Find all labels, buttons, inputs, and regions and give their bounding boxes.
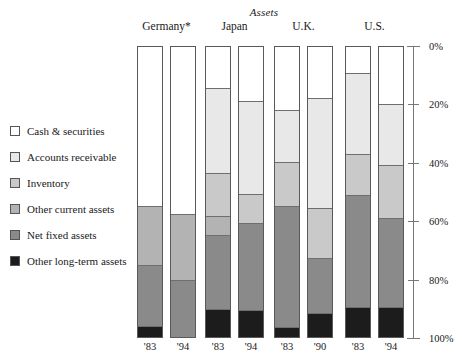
group-header-us: U.S. (364, 20, 384, 32)
bar-segment-cash-securities (171, 47, 195, 214)
legend-item: Inventory (10, 170, 160, 196)
bar-segment-other-long-term-assets (379, 307, 403, 337)
legend-item-label: Other current assets (27, 203, 114, 215)
legend-item: Net fixed assets (10, 222, 160, 248)
bar-segment-inventory (379, 165, 403, 217)
x-axis-tick-label: '83 (352, 341, 364, 352)
y-axis-tick (408, 221, 419, 222)
legend-item-label: Cash & securities (27, 125, 105, 137)
bar-segment-inventory (275, 162, 299, 206)
bar-segment-net-fixed-assets (346, 195, 370, 308)
x-axis-tick-label: '94 (385, 341, 397, 352)
legend-item-label: Net fixed assets (27, 229, 97, 241)
y-axis-tick (407, 46, 420, 47)
y-axis: 0%20%40%60%80%100% (413, 46, 414, 338)
x-axis-tick-label: '94 (245, 341, 257, 352)
bar-segment-cash-securities (346, 47, 370, 73)
bar-segment-net-fixed-assets (171, 280, 195, 337)
bar-germany-94 (170, 46, 196, 338)
assets-stacked-bar-chart: Assets Germany*JapanU.K.U.S. '83'94'83'9… (0, 0, 462, 363)
y-axis-tick-label: 40% (429, 157, 448, 168)
y-axis-tick-label: 60% (429, 216, 448, 227)
bar-segment-other-long-term-assets (308, 313, 332, 337)
legend-swatch-icon (10, 152, 20, 162)
y-axis-tick (408, 280, 419, 281)
bar-segment-inventory (206, 173, 230, 215)
legend-swatch-icon (10, 204, 20, 214)
group-header-uk: U.K. (292, 20, 314, 32)
legend-item-label: Other long-term assets (27, 255, 127, 267)
bar-segment-accounts-receivable (206, 88, 230, 173)
y-axis-tick-label: 20% (429, 99, 448, 110)
bar-japan-94 (238, 46, 264, 338)
bar-segment-cash-securities (379, 47, 403, 104)
bar-segment-other-long-term-assets (239, 310, 263, 337)
bar-segment-other-current-assets (171, 214, 195, 280)
legend-item: Cash & securities (10, 118, 160, 144)
group-header-japan: Japan (221, 20, 247, 32)
bar-segment-accounts-receivable (379, 104, 403, 165)
legend-item: Other long-term assets (10, 248, 160, 274)
x-axis-tick-label: '83 (212, 341, 224, 352)
bar-segment-cash-securities (308, 47, 332, 98)
legend-swatch-icon (10, 256, 20, 266)
bar-segment-other-current-assets (206, 216, 230, 236)
bar-us-83 (345, 46, 371, 338)
bar-segment-accounts-receivable (308, 98, 332, 208)
bar-segment-inventory (308, 208, 332, 258)
bar-us-94 (378, 46, 404, 338)
legend-swatch-icon (10, 126, 20, 136)
bar-segment-other-long-term-assets (138, 326, 162, 337)
bar-segment-cash-securities (206, 47, 230, 88)
bar-segment-net-fixed-assets (308, 258, 332, 313)
bar-segment-net-fixed-assets (275, 206, 299, 327)
bar-segment-cash-securities (239, 47, 263, 101)
bar-segment-other-long-term-assets (275, 327, 299, 337)
y-axis-tick-label: 80% (429, 274, 448, 285)
y-axis-tick-label: 100% (429, 333, 454, 344)
bar-segment-accounts-receivable (239, 101, 263, 194)
x-axis-tick-label: '83 (281, 341, 293, 352)
y-axis-tick (408, 163, 419, 164)
bar-segment-accounts-receivable (346, 73, 370, 154)
legend-item: Other current assets (10, 196, 160, 222)
bar-segment-other-long-term-assets (206, 309, 230, 337)
y-axis-tick (408, 104, 419, 105)
group-header-germany: Germany* (142, 20, 191, 32)
y-axis-tick (407, 338, 420, 339)
chart-title: Assets (0, 6, 462, 18)
bar-segment-other-long-term-assets (346, 307, 370, 337)
x-axis-tick-label: '94 (177, 341, 189, 352)
legend-swatch-icon (10, 178, 20, 188)
legend-item-label: Accounts receivable (27, 151, 116, 163)
bar-uk-90 (307, 46, 333, 338)
bar-segment-net-fixed-assets (206, 235, 230, 309)
bar-segment-accounts-receivable (275, 110, 299, 162)
legend-item: Accounts receivable (10, 144, 160, 170)
legend-swatch-icon (10, 230, 20, 240)
bar-segment-inventory (346, 154, 370, 195)
bar-segment-inventory (239, 194, 263, 224)
bar-japan-83 (205, 46, 231, 338)
x-axis-tick-label: '83 (144, 341, 156, 352)
y-axis-tick-label: 0% (429, 41, 443, 52)
bar-segment-net-fixed-assets (239, 223, 263, 310)
bar-segment-cash-securities (275, 47, 299, 110)
x-axis-tick-label: '90 (314, 341, 326, 352)
legend: Cash & securitiesAccounts receivableInve… (10, 118, 160, 274)
bar-segment-net-fixed-assets (379, 218, 403, 308)
legend-item-label: Inventory (27, 177, 70, 189)
bar-uk-83 (274, 46, 300, 338)
